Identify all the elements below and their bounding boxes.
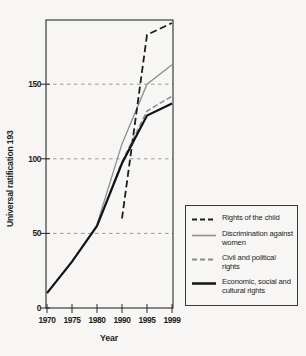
legend-item-label: Discrimination against women	[222, 229, 293, 248]
chart-canvas: Universal ratification 193 Year 1970 197…	[0, 0, 306, 356]
legend-item-rights-of-the-child: Rights of the child	[191, 213, 293, 224]
y-tick-label-50: 50	[18, 228, 41, 238]
legend-line-sample-solid-gray	[191, 231, 217, 240]
x-tick-label-1975: 1975	[59, 315, 85, 325]
y-tick-label-150: 150	[18, 79, 41, 89]
series-line-economic-social-and-cultural-rights	[47, 104, 172, 294]
x-axis-title: Year	[84, 333, 134, 343]
legend-line-sample-solid-black	[191, 279, 217, 288]
legend-item-economic-social-cultural-rights: Economic, social and cultural rights	[191, 277, 293, 296]
x-tick-label-1970: 1970	[34, 315, 60, 325]
x-tick-label-1990: 1990	[109, 315, 135, 325]
legend-line-sample-dashed-gray	[191, 255, 217, 264]
x-tick-label-1999: 1999	[159, 315, 185, 325]
legend-item-label: Economic, social and cultural rights	[222, 277, 293, 296]
legend: Rights of the child Discrimination again…	[185, 205, 298, 306]
legend-item-discrimination-against-women: Discrimination against women	[191, 229, 293, 248]
x-tick-label-1995: 1995	[134, 315, 160, 325]
legend-line-sample-dashed-black	[191, 215, 217, 224]
legend-item-label: Civil and political rights	[222, 253, 293, 272]
y-tick-label-100: 100	[18, 154, 41, 164]
legend-item-civil-and-political-rights: Civil and political rights	[191, 253, 293, 272]
legend-item-label: Rights of the child	[222, 213, 280, 222]
y-tick-label-0: 0	[18, 303, 41, 313]
series-line-rights-of-the-child	[122, 23, 172, 219]
y-axis-title: Universal ratification 193	[5, 96, 18, 261]
plot-border	[46, 20, 173, 308]
x-tick-label-1980: 1980	[84, 315, 110, 325]
